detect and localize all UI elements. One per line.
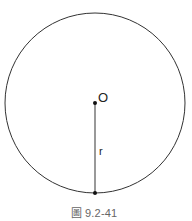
figure-caption: 圖 9.2-41	[0, 204, 188, 220]
radius-label: r	[99, 146, 103, 157]
center-point	[93, 101, 97, 105]
center-point-label: O	[98, 91, 108, 104]
circle-diagram	[0, 0, 192, 221]
edge-point	[93, 191, 97, 195]
